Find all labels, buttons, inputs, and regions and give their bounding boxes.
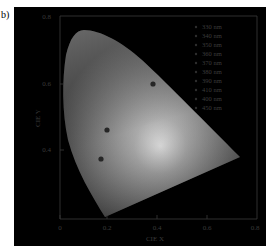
legend-entry: 330 nm — [202, 23, 222, 30]
x-tick-1: 0.2 — [103, 224, 112, 232]
cie-chart: 0 0.2 0.4 0.6 0.8 0.4 0.6 0.8 CIE X CIE … — [0, 0, 269, 251]
y-tick-0: 0.4 — [42, 146, 51, 154]
x-tick-3: 0.6 — [203, 224, 212, 232]
legend-entry: 340 nm — [202, 32, 222, 39]
legend-entry: 380 nm — [202, 68, 222, 75]
legend-entry: 390 nm — [202, 77, 222, 84]
y-tick-1: 0.6 — [42, 80, 51, 88]
legend-entry: 410 nm — [202, 86, 222, 93]
legend-entry: 360 nm — [202, 50, 222, 57]
data-point — [150, 81, 155, 86]
x-tick-2: 0.4 — [153, 224, 162, 232]
x-tick-0: 0 — [58, 224, 62, 232]
legend-entry: 450 nm — [202, 104, 222, 111]
data-point — [104, 127, 109, 132]
data-point — [98, 156, 103, 161]
x-tick-4: 0.8 — [251, 224, 260, 232]
y-axis-label: CIE Y — [34, 109, 42, 127]
y-tick-2: 0.8 — [42, 13, 51, 21]
x-axis-label: CIE X — [146, 235, 164, 243]
legend-entry: 350 nm — [202, 41, 222, 48]
legend-entry: 370 nm — [202, 59, 222, 66]
legend: 330 nm 340 nm 350 nm 360 nm 370 nm 380 n… — [195, 23, 222, 111]
legend-entry: 400 nm — [202, 95, 222, 102]
